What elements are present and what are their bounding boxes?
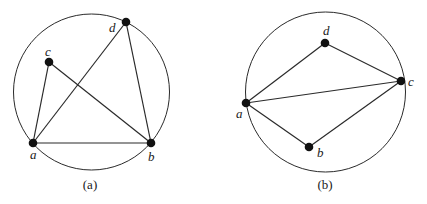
edge-b-c [309,81,401,147]
vertex-label-c: c [45,44,51,59]
vertex-label-a: a [236,106,243,121]
edge-d-b [126,22,151,143]
vertex-label-c: c [408,74,414,89]
vertex-a [29,139,38,148]
vertex-d [321,39,330,48]
edge-a-c [246,81,401,103]
vertex-label-d: d [109,20,116,35]
figure-b: abcd [236,12,414,172]
vertex-a [242,99,251,108]
figure-a: abcd [14,14,170,170]
circumcircle [14,14,170,170]
vertex-label-b: b [148,149,155,164]
edge-d-c [325,43,401,81]
edge-a-b [246,103,309,147]
vertex-b [305,143,314,152]
vertex-label-a: a [30,147,37,162]
vertex-d [122,18,131,27]
caption-b: (b) [317,177,332,192]
edge-a-d [33,22,126,143]
edge-a-c [33,62,49,143]
graph-diagram: abcd abcd (a) (b) [0,0,427,204]
caption-a: (a) [83,177,97,192]
vertex-b [147,139,156,148]
vertex-label-b: b [317,145,324,160]
vertex-label-d: d [323,23,330,38]
vertex-c [397,77,406,86]
